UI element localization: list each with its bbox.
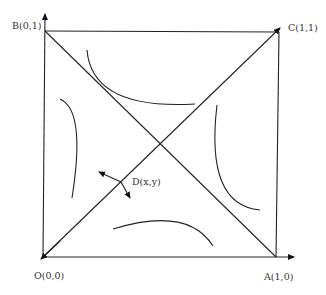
diagram-canvas bbox=[0, 0, 326, 295]
curve-left bbox=[60, 99, 77, 198]
diagonal-AO-arrow bbox=[41, 241, 60, 259]
curve-right bbox=[215, 105, 260, 210]
label-D: D(x,y) bbox=[132, 176, 161, 187]
edge-CA bbox=[276, 32, 279, 257]
edge-BC bbox=[45, 31, 279, 32]
arrow-D-down bbox=[121, 182, 130, 198]
curve-top bbox=[87, 50, 195, 105]
label-O: O(0,0) bbox=[34, 270, 64, 281]
diagram: B(0,1) C(1,1) O(0,0) A(1,0) D(x,y) bbox=[0, 0, 326, 295]
label-A: A(1,0) bbox=[264, 271, 293, 282]
label-C: C(1,1) bbox=[288, 22, 318, 33]
edge-OB bbox=[43, 14, 45, 257]
arrow-D-left bbox=[99, 172, 121, 182]
curve-bottom bbox=[113, 221, 213, 246]
diagonal-OC bbox=[43, 28, 280, 257]
label-B: B(0,1) bbox=[12, 20, 42, 31]
